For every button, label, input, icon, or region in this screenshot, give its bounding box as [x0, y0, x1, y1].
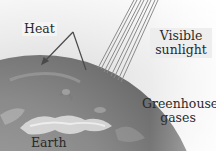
greenhouse-gases-line2: gases [142, 111, 214, 125]
earth-label: Earth [31, 136, 67, 150]
visible-sunlight-line2: sunlight [150, 43, 212, 57]
greenhouse-gases-label: Greenhouse gases [142, 97, 214, 125]
greenhouse-gases-line1: Greenhouse [142, 97, 214, 111]
heat-label: Heat [22, 22, 57, 36]
visible-sunlight-line1: Visible [150, 29, 212, 43]
greenhouse-diagram: Heat Visible sunlight Greenhouse gases E… [0, 0, 216, 151]
visible-sunlight-label: Visible sunlight [150, 28, 212, 58]
sunlight-rays [98, 0, 158, 82]
